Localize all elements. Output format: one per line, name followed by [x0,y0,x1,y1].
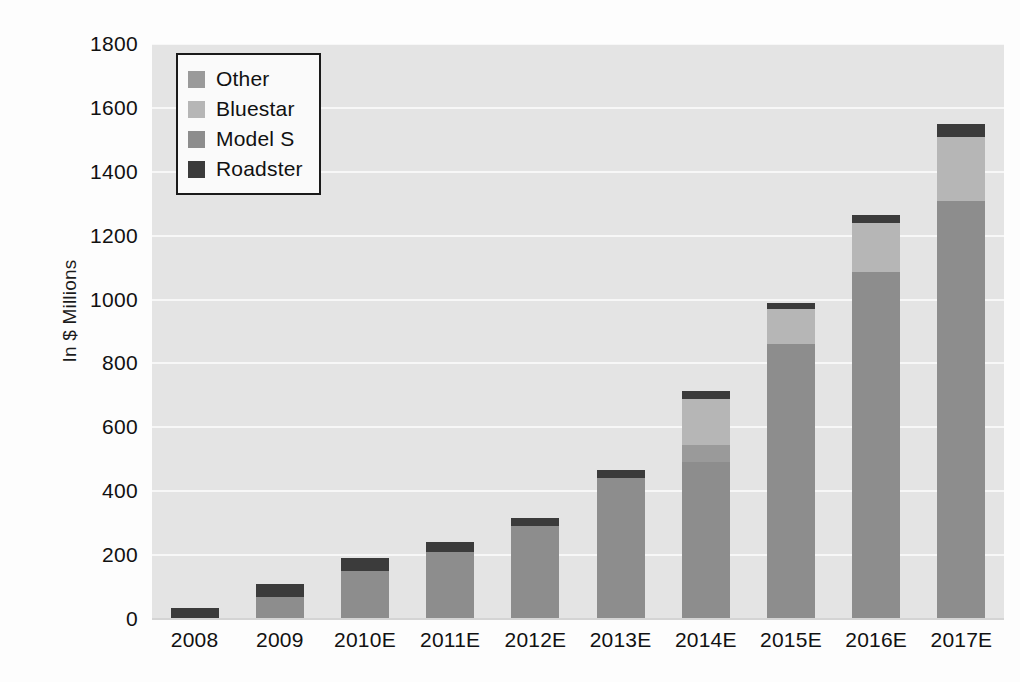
bar-column[interactable] [682,391,730,619]
bar-segment[interactable] [426,552,474,619]
legend-item[interactable]: Bluestar [188,94,303,124]
bar-segment[interactable] [937,124,985,137]
bar-segment[interactable] [511,518,559,526]
bar-column[interactable] [852,215,900,619]
x-axis-tick-label: 2016E [834,628,919,652]
x-axis-tick-label: 2009 [237,628,322,652]
y-axis-tick-label: 1400 [38,160,138,184]
chart-legend: OtherBluestarModel SRoadster [176,53,321,195]
y-axis-tick-label: 600 [38,415,138,439]
x-axis-tick-label: 2008 [152,628,237,652]
bar-column[interactable] [937,124,985,619]
bar-segment[interactable] [597,470,645,478]
x-axis-tick-labels: 200820092010E2011E2012E2013E2014E2015E20… [152,628,1004,660]
bar-segment[interactable] [682,462,730,619]
legend-item-label: Roadster [216,157,303,181]
bar-segment[interactable] [256,597,304,619]
bar-segment[interactable] [852,223,900,273]
y-axis-tick-label: 0 [38,607,138,631]
bar-segment[interactable] [682,391,730,399]
x-axis-tick-label: 2012E [493,628,578,652]
bar-segment[interactable] [511,526,559,619]
bar-segment[interactable] [682,445,730,463]
bar-chart: In $ Millions 02004006008001000120014001… [0,0,1020,682]
bar-segment[interactable] [256,584,304,597]
legend-item-label: Model S [216,127,294,151]
x-axis-tick-label: 2010E [322,628,407,652]
bar-column[interactable] [597,470,645,619]
x-axis-tick-label: 2017E [919,628,1004,652]
bar-segment[interactable] [682,399,730,445]
gridline [152,44,1004,45]
y-axis-tick-label: 1600 [38,96,138,120]
bar-segment[interactable] [937,137,985,201]
bar-column[interactable] [511,518,559,619]
legend-item-label: Bluestar [216,97,295,121]
y-axis-tick-label: 1000 [38,288,138,312]
bar-column[interactable] [426,542,474,619]
x-axis-tick-label: 2014E [663,628,748,652]
bar-segment[interactable] [937,201,985,619]
bar-segment[interactable] [852,215,900,223]
bar-segment[interactable] [597,478,645,619]
legend-swatch-icon [188,161,205,178]
x-axis-tick-label: 2013E [578,628,663,652]
bar-segment[interactable] [341,571,389,619]
x-axis-tick-label: 2015E [748,628,833,652]
legend-swatch-icon [188,131,205,148]
bar-column[interactable] [341,558,389,619]
bar-column[interactable] [767,303,815,619]
y-axis-tick-label: 1800 [38,32,138,56]
legend-swatch-icon [188,101,205,118]
x-axis-baseline [152,618,1004,620]
bar-segment[interactable] [341,558,389,571]
legend-item[interactable]: Roadster [188,154,303,184]
bar-segment[interactable] [767,303,815,309]
y-axis-tick-label: 800 [38,351,138,375]
y-axis-tick-label: 400 [38,479,138,503]
y-axis-tick-label: 1200 [38,224,138,248]
y-axis-tick-label: 200 [38,543,138,567]
bar-segment[interactable] [767,344,815,619]
legend-item-label: Other [216,67,270,91]
y-axis-tick-labels: 020040060080010001200140016001800 [38,44,138,619]
legend-swatch-icon [188,71,205,88]
bar-segment[interactable] [426,542,474,552]
bar-column[interactable] [256,584,304,619]
legend-item[interactable]: Other [188,64,303,94]
legend-item[interactable]: Model S [188,124,303,154]
bar-segment[interactable] [767,309,815,344]
bar-segment[interactable] [852,272,900,619]
x-axis-tick-label: 2011E [408,628,493,652]
